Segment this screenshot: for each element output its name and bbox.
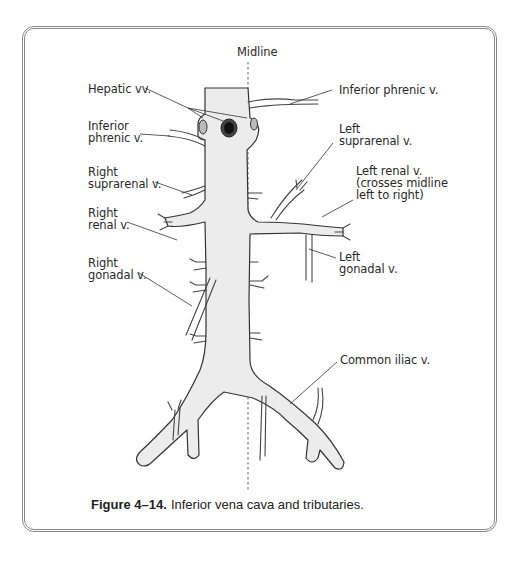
label-right-gonadal: Right gonadal v. [88, 257, 146, 281]
label-right-renal: Right renal v. [88, 207, 130, 231]
vessels [137, 88, 345, 469]
label-right-inferior-phrenic: Inferior phrenic v. [88, 120, 143, 144]
ivc-illustration [0, 0, 528, 563]
label-hepatic-vv: Hepatic vv. [88, 83, 151, 95]
hepatic-vein-ostium-right [199, 120, 207, 134]
label-left-gonadal: Left gonadal v. [339, 251, 397, 275]
ivc-trunk [137, 88, 345, 469]
label-right-suprarenal: Right suprarenal v. [88, 166, 161, 190]
label-common-iliac: Common iliac v. [340, 354, 430, 366]
figure-caption: Figure 4–14.Inferior vena cava and tribu… [91, 497, 364, 512]
label-left-inferior-phrenic: Inferior phrenic v. [339, 84, 438, 96]
figure-caption-text: Inferior vena cava and tributaries. [171, 497, 364, 512]
hepatic-vein-ostium-left [251, 118, 258, 130]
figure-number: Figure 4–14. [91, 497, 167, 512]
label-left-suprarenal: Left suprarenal v. [339, 123, 412, 147]
midline-label: Midline [237, 46, 277, 58]
label-left-renal: Left renal v. (crosses midline left to r… [356, 165, 448, 201]
